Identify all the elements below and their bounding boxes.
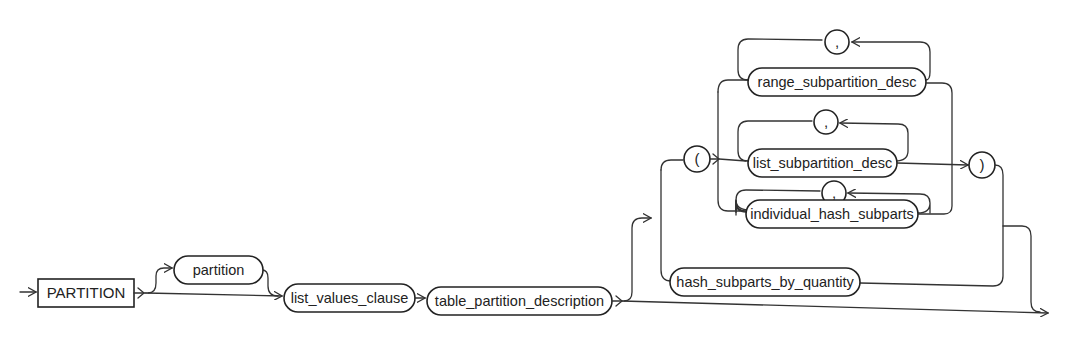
exit-connector [1003, 226, 1040, 312]
node-individual-hash-subparts: individual_hash_subparts [746, 200, 918, 228]
node-list-comma: , [814, 110, 838, 134]
choice-left-individual [718, 92, 740, 211]
node-range-subpartition-desc-label: range_subpartition_desc [758, 74, 917, 90]
syntax-diagram: PARTITION partition list_values_clause t… [0, 0, 1073, 347]
node-individual-hash-subparts-label: individual_hash_subparts [750, 206, 914, 222]
node-range-comma: , [825, 30, 849, 54]
close-paren-label: ) [980, 156, 985, 173]
node-table-partition-description-label: table_partition_description [435, 293, 604, 309]
node-partition-label: partition [193, 262, 245, 278]
branch-partition-out [262, 270, 278, 296]
list-to-close-paren [897, 163, 968, 165]
branch-partition-in [148, 268, 172, 293]
node-hash-subparts-by-quantity-label: hash_subparts_by_quantity [676, 274, 854, 290]
main-line [146, 293, 282, 296]
branch-subpartition-in [624, 218, 651, 301]
list-comma-label: , [824, 113, 828, 130]
trunk-to-quantity [661, 170, 672, 281]
node-hash-subparts-by-quantity: hash_subparts_by_quantity [670, 268, 860, 296]
choice-left-range [718, 80, 748, 92]
node-close-paren: ) [969, 152, 995, 178]
hash-comma-label: , [832, 184, 836, 201]
range-comma-label: , [835, 33, 839, 50]
bypass-line [622, 301, 1048, 313]
node-partition: partition [174, 256, 263, 284]
node-list-subpartition-desc: list_subpartition_desc [748, 149, 897, 177]
node-list-values-clause: list_values_clause [284, 284, 415, 312]
open-paren-label: ( [695, 150, 700, 167]
node-list-values-clause-label: list_values_clause [291, 290, 409, 306]
node-list-subpartition-desc-label: list_subpartition_desc [753, 155, 892, 171]
node-table-partition-description: table_partition_description [427, 287, 612, 315]
node-open-paren: ( [684, 146, 710, 172]
node-range-subpartition-desc: range_subpartition_desc [748, 68, 926, 96]
trunk-to-paren [661, 160, 683, 170]
keyword-partition: PARTITION [38, 279, 134, 307]
keyword-partition-label: PARTITION [47, 284, 126, 301]
